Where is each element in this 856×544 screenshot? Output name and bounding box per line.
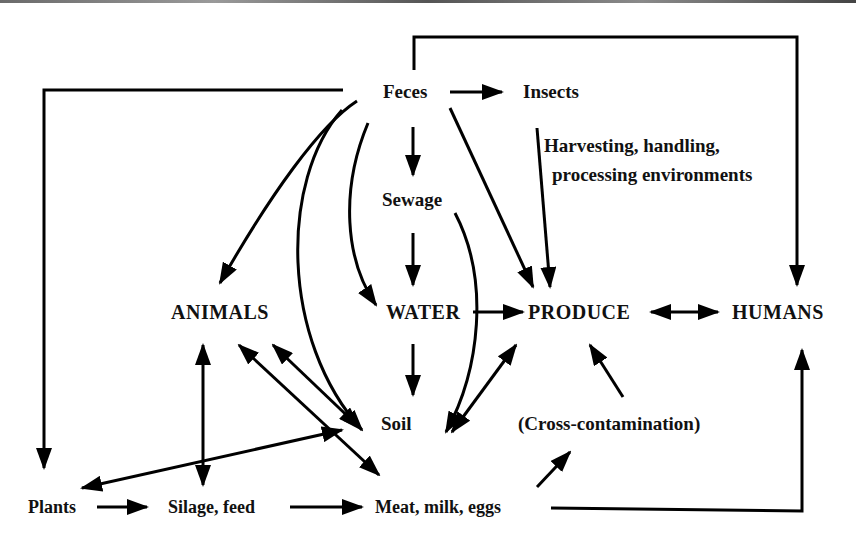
edge-cross-produce <box>590 345 623 397</box>
edge-soil-produce <box>452 345 516 432</box>
node-humans: HUMANS <box>732 302 824 322</box>
edge-feces-produce <box>450 108 533 287</box>
node-animals: ANIMALS <box>171 302 269 322</box>
edge-animals-meat <box>239 345 379 475</box>
node-soil: Soil <box>381 414 412 433</box>
node-sewage: Sewage <box>382 190 442 209</box>
node-silage-feed: Silage, feed <box>168 498 255 516</box>
node-cross-contamination: (Cross-contamination) <box>518 414 700 433</box>
edge-feces-soil <box>298 110 362 430</box>
node-feces: Feces <box>383 82 427 101</box>
node-meat-milk-eggs: Meat, milk, eggs <box>375 498 501 516</box>
node-produce: PRODUCE <box>528 302 630 322</box>
node-plants: Plants <box>28 498 76 516</box>
edge-meat-cross <box>537 452 570 487</box>
node-harvesting-line2: processing environments <box>552 165 752 184</box>
edge-feces-water <box>350 123 376 305</box>
node-harvesting-line1: Harvesting, handling, <box>544 136 720 155</box>
edge-feces-humans <box>414 37 797 285</box>
edges-layer <box>0 0 856 544</box>
node-insects: Insects <box>523 82 579 101</box>
edge-soil-plants <box>82 430 342 488</box>
node-water: WATER <box>386 302 460 322</box>
edge-feces-animals <box>220 101 357 283</box>
